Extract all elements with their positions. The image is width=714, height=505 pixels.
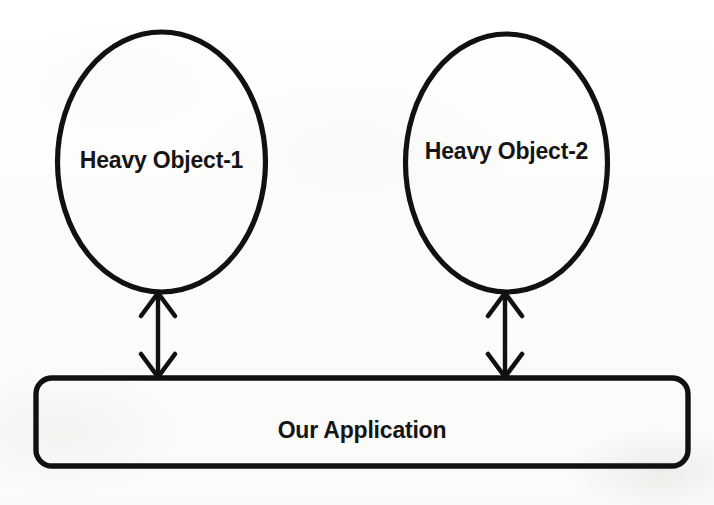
diagram-canvas: Heavy Object-1 Heavy Object-2 Our Applic…: [0, 0, 714, 505]
connector-left-arrow[interactable]: [141, 293, 175, 377]
connector-right-arrow[interactable]: [488, 293, 522, 377]
node-our-application-label: Our Application: [36, 417, 688, 443]
node-heavy-object-1-label: Heavy Object-1: [57, 147, 266, 173]
node-heavy-object-2-label: Heavy Object-2: [404, 138, 609, 164]
